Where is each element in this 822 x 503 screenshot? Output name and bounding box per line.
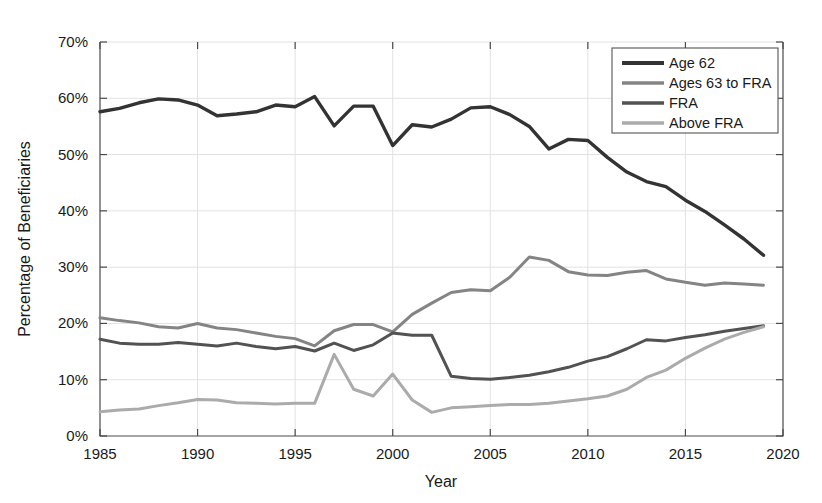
y-axis-tick-labels: 0%10%20%30%40%50%60%70%	[58, 33, 88, 444]
y-tick-label: 60%	[58, 89, 88, 106]
chart-container: 0%10%20%30%40%50%60%70% 1985199019952000…	[0, 0, 822, 503]
chart-legend: Age 62Ages 63 to FRAFRAAbove FRA	[612, 48, 778, 133]
series-line-ages-63-to-fra	[100, 257, 763, 346]
y-tick-label: 30%	[58, 258, 88, 275]
y-tick-label: 0%	[66, 427, 88, 444]
data-series	[100, 97, 763, 413]
x-tick-label: 1990	[181, 445, 214, 462]
x-tick-label: 1985	[83, 445, 116, 462]
x-tick-label: 2010	[571, 445, 604, 462]
x-tick-label: 2015	[669, 445, 702, 462]
x-tick-label: 1995	[278, 445, 311, 462]
y-tick-label: 50%	[58, 146, 88, 163]
legend-label-fra: FRA	[669, 95, 698, 111]
y-axis-title: Percentage of Beneficiaries	[16, 141, 33, 337]
y-tick-label: 70%	[58, 33, 88, 50]
y-tick-label: 20%	[58, 314, 88, 331]
x-tick-label: 2005	[474, 445, 507, 462]
legend-label-ages-63-to-fra: Ages 63 to FRA	[669, 75, 772, 91]
y-tick-label: 40%	[58, 202, 88, 219]
legend-label-above-fra: Above FRA	[669, 115, 743, 131]
legend-label-age-62: Age 62	[669, 55, 715, 71]
x-axis-tick-labels: 19851990199520002005201020152020	[83, 445, 799, 462]
x-tick-label: 2000	[376, 445, 409, 462]
x-axis-title: Year	[425, 473, 458, 490]
line-chart: 0%10%20%30%40%50%60%70% 1985199019952000…	[0, 0, 822, 503]
y-tick-label: 10%	[58, 371, 88, 388]
x-tick-label: 2020	[766, 445, 799, 462]
